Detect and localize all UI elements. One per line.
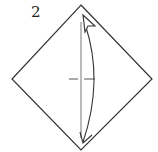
paper-diamond [12,5,152,150]
origami-diagram [0,0,158,152]
